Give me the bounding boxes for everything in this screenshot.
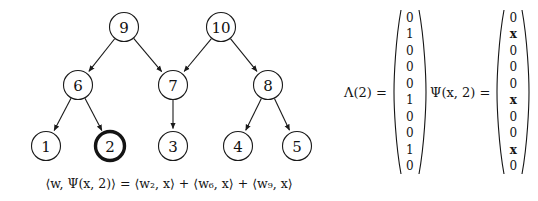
lambda-vector-group: Λ(2) = 0100010010: [344, 8, 427, 176]
node-label-5: 5: [292, 138, 302, 156]
node-label-6: 6: [73, 77, 83, 95]
psi-vector-label: Ψ(x, 2) =: [430, 85, 496, 100]
tree-edge-9-to-6: [89, 39, 115, 72]
lambda-vector-entry-8: 0: [405, 127, 415, 139]
tree-node-9[interactable]: 9: [110, 13, 139, 42]
psi-vector-entry-9: x: [508, 144, 518, 156]
tree-node-8[interactable]: 8: [254, 71, 283, 100]
psi-vector-entry-1: 0: [508, 12, 518, 24]
psi-vector-entry-10: 0: [508, 160, 518, 172]
lambda-vector-entry-4: 0: [405, 61, 415, 73]
lambda-vector-entries: 0100010010: [402, 12, 418, 172]
tree-nodes: 91067812345: [32, 13, 312, 161]
node-label-7: 7: [168, 77, 178, 95]
psi-vector-entry-4: 0: [508, 61, 518, 73]
tree-edge-10-to-8: [230, 39, 257, 72]
lambda-vector-entry-2: 1: [405, 28, 415, 40]
caption: ⟨w, Ψ(x, 2)⟩ = ⟨w₂, x⟩ + ⟨w₆, x⟩ + ⟨w₉, …: [0, 176, 338, 191]
node-label-1: 1: [41, 138, 51, 156]
left-paren-icon: [393, 8, 402, 176]
tree-edge-8-to-5: [274, 99, 289, 131]
node-label-2: 2: [105, 138, 115, 156]
lambda-vector-entry-3: 0: [405, 45, 415, 57]
tree-node-10[interactable]: 10: [207, 13, 236, 42]
psi-vector-entry-6: x: [508, 94, 518, 106]
tree-node-4[interactable]: 4: [224, 132, 253, 161]
psi-vector-entry-2: x: [508, 28, 518, 40]
psi-vector-bracket: 0x000x00x0: [496, 8, 530, 176]
tree-node-3[interactable]: 3: [159, 132, 188, 161]
tree-node-7[interactable]: 7: [159, 71, 188, 100]
lambda-vector-entry-9: 1: [405, 144, 415, 156]
lambda-vector-label: Λ(2) =: [344, 85, 393, 100]
tree-diagram: 91067812345: [0, 0, 338, 201]
node-label-4: 4: [233, 138, 243, 156]
psi-vector-entry-7: 0: [508, 111, 518, 123]
tree-edge-6-to-2: [85, 98, 102, 130]
psi-vector-entry-5: 0: [508, 78, 518, 90]
right-paren-icon: [521, 8, 530, 176]
psi-vector-entries: 0x000x00x0: [505, 12, 521, 172]
tree-edge-6-to-1: [54, 98, 71, 130]
tree-edge-9-to-7: [134, 38, 162, 71]
node-label-10: 10: [211, 19, 230, 37]
psi-vector-entry-3: 0: [508, 45, 518, 57]
psi-vector-group: Ψ(x, 2) = 0x000x00x0: [430, 8, 530, 176]
lambda-vector-entry-1: 0: [405, 12, 415, 24]
left-paren-icon: [496, 8, 505, 176]
node-label-9: 9: [119, 19, 129, 37]
right-paren-icon: [418, 8, 427, 176]
tree-edge-10-to-7: [184, 39, 211, 72]
tree-edge-8-to-4: [246, 98, 262, 130]
lambda-vector-entry-10: 0: [405, 160, 415, 172]
psi-vector-entry-8: 0: [508, 127, 518, 139]
lambda-vector-entry-6: 1: [405, 94, 415, 106]
lambda-vector-entry-7: 0: [405, 111, 415, 123]
lambda-vector-bracket: 0100010010: [393, 8, 427, 176]
tree-node-1[interactable]: 1: [32, 132, 61, 161]
caption-label: ⟨w, Ψ(x, 2)⟩ = ⟨w₂, x⟩ + ⟨w₆, x⟩ + ⟨w₉, …: [45, 176, 292, 191]
figure-root: 91067812345 ⟨w, Ψ(x, 2)⟩ = ⟨w₂, x⟩ + ⟨w₆…: [0, 0, 538, 201]
tree-node-5[interactable]: 5: [283, 132, 312, 161]
lambda-vector-entry-5: 0: [405, 78, 415, 90]
tree-node-2[interactable]: 2: [96, 132, 125, 161]
node-label-8: 8: [263, 77, 273, 95]
node-label-3: 3: [168, 138, 178, 156]
tree-node-6[interactable]: 6: [64, 71, 93, 100]
